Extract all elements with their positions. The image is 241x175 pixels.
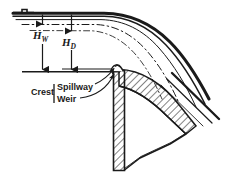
label-head-design: HD <box>62 37 76 51</box>
label-head-weir-symbol: H <box>33 29 42 41</box>
label-head-weir-subscript: W <box>42 35 49 44</box>
label-head-weir: HW <box>33 30 48 44</box>
label-spillway: Spillway <box>57 83 93 92</box>
label-weir: Weir <box>57 95 76 104</box>
spillway-weir-diagram: HW HD Crest Spillway Weir <box>0 0 241 175</box>
label-crest: Crest <box>31 88 54 97</box>
label-head-design-subscript: D <box>71 42 76 51</box>
label-head-design-symbol: H <box>62 36 71 48</box>
crest-reference-level <box>22 69 122 72</box>
